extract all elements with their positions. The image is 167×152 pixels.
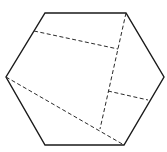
vertical-fold-line <box>100 13 126 129</box>
hexagon-diagram <box>0 0 167 152</box>
diagonal-fold-line <box>6 77 124 145</box>
dashed-lines-group <box>6 13 148 145</box>
upper-fold-line <box>34 31 118 49</box>
hexagon-outline <box>6 13 164 145</box>
diagram-svg <box>0 0 167 152</box>
lower-right-fold-line <box>108 91 148 100</box>
